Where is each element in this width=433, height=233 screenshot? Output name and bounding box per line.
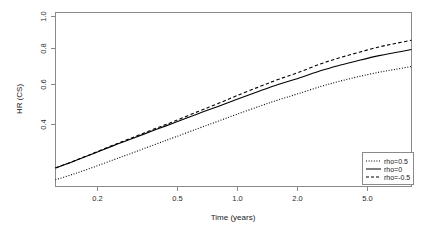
x-tick-label: 2.0 — [292, 194, 302, 203]
y-tick-label: 0.6 — [39, 79, 48, 89]
x-tick-label: 5.0 — [362, 194, 372, 203]
y-tick-label: 0.4 — [39, 119, 48, 129]
legend-label-rho-0-5: rho=0.5 — [384, 158, 408, 165]
hr-cs-vs-time-line-chart: 1.0 0.8 0.6 0.4 HR (CS) 0.2 0.5 1.0 2.0 … — [0, 0, 433, 233]
x-tick-label: 0.5 — [172, 194, 182, 203]
legend: rho=0.5 rho=0 rho=-0.5 — [363, 153, 414, 185]
y-tick-label: 1.0 — [39, 11, 48, 21]
x-tick-label: 1.0 — [232, 194, 242, 203]
x-tick-label: 0.2 — [92, 194, 102, 203]
y-tick-label: 0.8 — [39, 43, 48, 53]
legend-label-rho-minus-0-5: rho=-0.5 — [384, 174, 410, 181]
x-axis-title: Time (years) — [211, 213, 256, 222]
chart-figure: 1.0 0.8 0.6 0.4 HR (CS) 0.2 0.5 1.0 2.0 … — [0, 0, 433, 233]
legend-label-rho-0: rho=0 — [384, 166, 402, 173]
y-axis-title: HR (CS) — [15, 84, 24, 115]
